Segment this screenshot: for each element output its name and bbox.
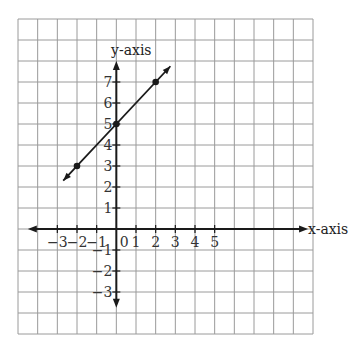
y-axis-label: y-axis xyxy=(110,42,152,58)
x-tick-label: 4 xyxy=(191,234,200,250)
x-axis-left-arrow-icon xyxy=(28,226,37,233)
data-point xyxy=(152,79,159,86)
y-axis-down-arrow-icon xyxy=(113,299,120,308)
grid xyxy=(18,19,313,334)
coordinate-plane-chart: −3−2−10123457654321−1−2−3 x-axis y-axis xyxy=(0,0,360,356)
y-tick-label: 4 xyxy=(103,137,112,153)
data-point xyxy=(74,163,81,170)
x-tick-label: −2 xyxy=(67,234,88,250)
y-tick-label: 2 xyxy=(103,179,112,195)
y-tick-label: −3 xyxy=(92,284,113,300)
x-axis-label: x-axis xyxy=(308,221,348,237)
data-point xyxy=(113,121,120,128)
y-axis-up-arrow-icon xyxy=(113,61,120,70)
x-tick-label: 0 xyxy=(120,234,129,250)
y-tick-label: 1 xyxy=(103,200,112,216)
y-tick-label: −2 xyxy=(92,263,113,279)
y-tick-label: 6 xyxy=(103,95,112,111)
x-tick-label: 3 xyxy=(171,234,180,250)
y-tick-label: −1 xyxy=(92,242,113,258)
x-tick-label: 5 xyxy=(210,234,219,250)
y-tick-label: 7 xyxy=(103,74,112,90)
x-tick-label: −3 xyxy=(47,234,68,250)
x-tick-label: 1 xyxy=(132,234,141,250)
x-tick-label: 2 xyxy=(151,234,160,250)
x-axis-right-arrow-icon xyxy=(299,226,308,233)
y-tick-label: 3 xyxy=(103,158,112,174)
